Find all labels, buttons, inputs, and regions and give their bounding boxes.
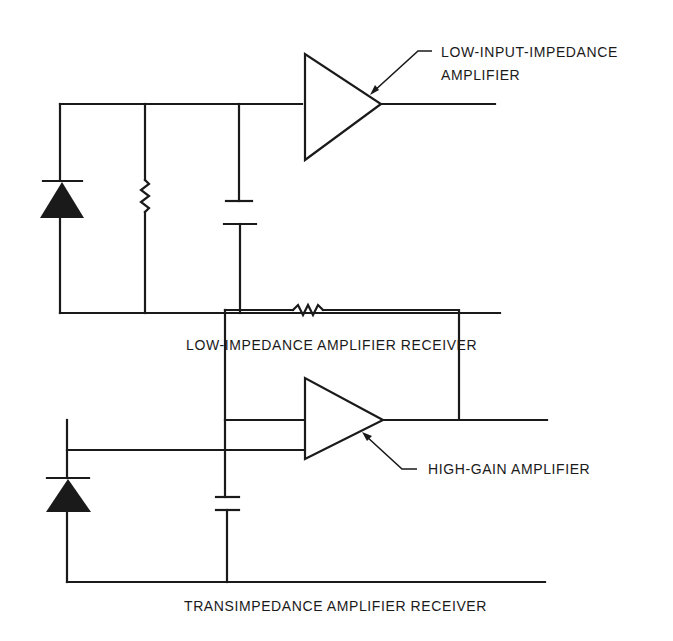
caption-low-impedance: LOW-IMPEDANCE AMPLIFIER RECEIVER — [186, 337, 477, 353]
high-gain-amplifier-label: HIGH-GAIN AMPLIFIER — [428, 461, 590, 477]
amplifier-icon — [305, 54, 381, 160]
resistor-icon — [141, 104, 149, 313]
photodiode-icon — [40, 104, 84, 313]
low-impedance-receiver: LOW-INPUT-IMPEDANCE AMPLIFIER LOW-IMPEDA… — [40, 44, 618, 353]
caption-transimpedance: TRANSIMPEDANCE AMPLIFIER RECEIVER — [184, 598, 487, 614]
feedback-resistor-icon — [225, 305, 459, 420]
high-gain-leader-arrow — [362, 432, 417, 469]
amplifier-leader-arrow — [370, 51, 432, 95]
capacitor-icon — [224, 104, 256, 313]
amplifier-label-line2: AMPLIFIER — [441, 67, 520, 83]
circuit-diagrams: LOW-INPUT-IMPEDANCE AMPLIFIER LOW-IMPEDA… — [0, 0, 673, 641]
amplifier-label-line1: LOW-INPUT-IMPEDANCE — [441, 44, 618, 60]
photodiode-icon-2 — [46, 420, 91, 582]
high-gain-amplifier-icon — [305, 378, 383, 459]
